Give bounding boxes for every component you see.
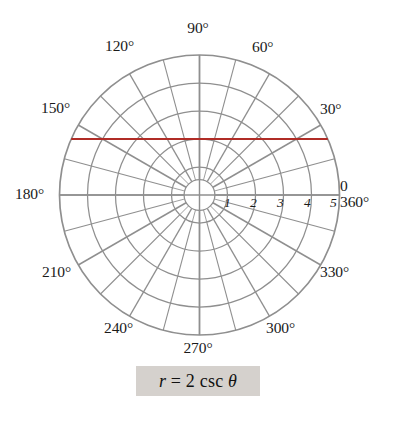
equation-text: r = 2 csc θ — [159, 371, 237, 392]
angle-label-270: 270° — [0, 340, 396, 356]
angle-label-150: 150° — [41, 100, 70, 116]
grid-hub-ray-15 — [214, 188, 226, 191]
r-tick-label-5: 5 — [330, 196, 337, 210]
grid-spoke-315 — [219, 215, 298, 294]
grid-spoke-75 — [207, 60, 236, 168]
angle-label-360: 360° — [340, 193, 369, 210]
grid-group — [60, 55, 340, 335]
angle-label-330: 330° — [320, 264, 349, 280]
angle-label-120: 120° — [105, 38, 134, 54]
grid-hub-ray-105 — [192, 168, 195, 180]
angle-label-90: 90° — [0, 20, 396, 36]
grid-hub-ray-75 — [203, 168, 206, 180]
grid-spoke-300 — [200, 195, 270, 316]
grid-spoke-150 — [78, 125, 199, 195]
polar-figure: 90° 120° 60° 150° 30° 180° 0 360° 210° 3… — [0, 0, 396, 443]
grid-spoke-225 — [101, 215, 180, 294]
grid-spoke-135 — [101, 96, 180, 175]
grid-hub-ray-225 — [180, 206, 189, 215]
grid-hub-ray-45 — [210, 175, 219, 184]
angle-label-300: 300° — [266, 320, 295, 336]
angle-label-0: 0 — [340, 177, 348, 194]
grid-hub-ray-165 — [172, 188, 184, 191]
grid-hub-ray-315 — [210, 206, 219, 215]
grid-spoke-120 — [130, 74, 200, 195]
grid-spoke-30 — [200, 125, 321, 195]
grid-hub-ray-195 — [172, 199, 184, 202]
grid-spoke-210 — [78, 195, 199, 265]
grid-hub-ray-255 — [192, 210, 195, 222]
angle-label-240: 240° — [104, 320, 133, 336]
grid-spoke-330 — [200, 195, 321, 265]
grid-spoke-60 — [200, 74, 270, 195]
grid-hub-ray-135 — [180, 175, 189, 184]
equation-theta: θ — [228, 371, 237, 391]
angle-label-180: 180° — [15, 186, 44, 202]
grid-spoke-240 — [130, 195, 200, 316]
grid-hub-ray-285 — [203, 210, 206, 222]
angle-label-210: 210° — [42, 264, 71, 280]
equation-caption-box: r = 2 csc θ — [136, 366, 260, 396]
grid-spoke-165 — [64, 159, 172, 188]
r-tick-label-4: 4 — [304, 196, 311, 210]
r-tick-label-1: 1 — [224, 196, 231, 210]
grid-spoke-285 — [207, 222, 236, 330]
r-tick-label-3: 3 — [277, 196, 284, 210]
r-tick-label-2: 2 — [250, 196, 257, 210]
grid-spoke-195 — [64, 202, 172, 231]
grid-spoke-255 — [163, 222, 192, 330]
angle-label-30: 30° — [320, 101, 341, 117]
grid-spoke-105 — [163, 60, 192, 168]
grid-spoke-45 — [219, 96, 298, 175]
angle-label-60: 60° — [252, 39, 273, 55]
angle-label-0-360: 0 360° — [340, 178, 394, 210]
grid-spoke-15 — [227, 159, 335, 188]
equation-operator: = 2 csc — [166, 371, 228, 391]
